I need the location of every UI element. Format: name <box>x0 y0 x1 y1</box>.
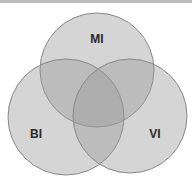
venn-diagram: MI BI VI <box>0 0 192 181</box>
venn-label-mi: MI <box>90 32 103 46</box>
venn-circle-vi <box>73 59 187 173</box>
venn-label-vi: VI <box>149 127 160 141</box>
venn-label-bi: BI <box>30 127 42 141</box>
